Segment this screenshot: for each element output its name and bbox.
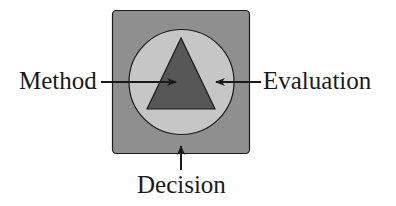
decision-label: Decision (137, 172, 226, 197)
evaluation-label: Evaluation (263, 68, 371, 93)
method-label: Method (19, 68, 97, 93)
